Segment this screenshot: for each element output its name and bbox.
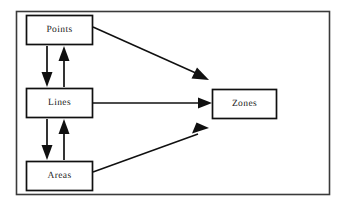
node-box-zones[interactable] (213, 90, 277, 119)
diagram-canvas: Points Lines Areas Zones (0, 0, 344, 208)
node-box-areas[interactable] (27, 162, 93, 191)
node-box-points[interactable] (27, 16, 93, 45)
diagram-graphics (0, 0, 344, 208)
node-box-lines[interactable] (27, 89, 93, 118)
